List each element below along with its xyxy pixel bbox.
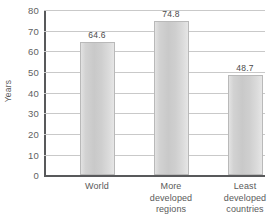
y-axis-tick-label: 0 (34, 170, 39, 181)
y-axis-tick-label: 20 (28, 129, 39, 140)
x-axis-tick-label-line: More (150, 181, 192, 193)
y-axis-tick-label: 70 (28, 25, 39, 36)
y-axis-tick-label: 30 (28, 108, 39, 119)
bar (80, 42, 115, 176)
bar-chart: Years 8070605040302010064.674.848.7 Worl… (0, 0, 267, 223)
gridline (44, 10, 265, 11)
x-axis-tick-label: World (85, 181, 109, 193)
y-axis-tick-label: 60 (28, 46, 39, 57)
y-axis-tick-label: 50 (28, 67, 39, 78)
x-axis-tick-label-line: developed (150, 193, 192, 205)
x-axis-tick-label: Moredevelopedregions (150, 181, 192, 216)
bar-value-label: 64.6 (88, 30, 105, 40)
x-axis-tick-label-line: Least (224, 181, 266, 193)
y-axis-tick-label: 40 (28, 87, 39, 98)
x-axis-tick-label-line: World (85, 181, 109, 193)
x-axis-tick-label-line: developed (224, 193, 266, 205)
y-axis-title: Years (3, 69, 13, 113)
bar (228, 75, 263, 176)
bar-value-label: 48.7 (236, 63, 253, 73)
plot-area: 8070605040302010064.674.848.7 (44, 10, 265, 177)
x-axis-tick-label-line: regions (150, 204, 192, 216)
y-axis-tick-label: 80 (28, 5, 39, 16)
x-axis-tick-label-line: countries (224, 204, 266, 216)
bar-value-label: 74.8 (162, 9, 179, 19)
bar (154, 21, 189, 176)
x-axis-tick-label: Leastdevelopedcountries (224, 181, 266, 216)
y-axis-tick-label: 10 (28, 149, 39, 160)
